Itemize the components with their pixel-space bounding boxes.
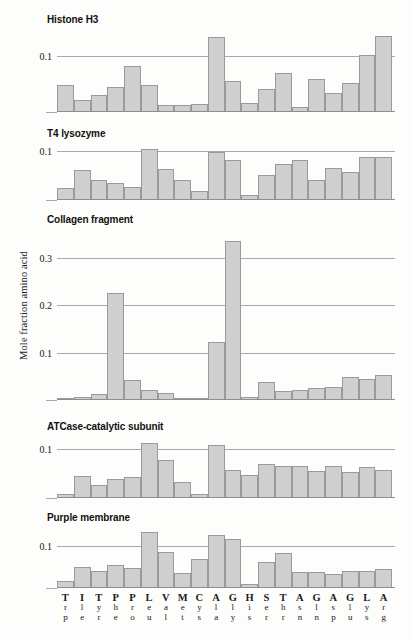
x-tick-letter: u	[342, 613, 359, 623]
bar	[225, 241, 242, 399]
x-tick-glu: Glu	[342, 592, 359, 638]
x-tick-letter: u	[141, 613, 158, 623]
x-tick-letter: p	[325, 613, 342, 623]
bar	[191, 191, 208, 199]
bar	[359, 157, 376, 199]
x-tick-letter: e	[74, 613, 91, 623]
bar	[57, 85, 74, 111]
bar	[325, 387, 342, 399]
bar	[241, 475, 258, 497]
x-tick-ser: Ser	[258, 592, 275, 638]
bar	[174, 180, 191, 199]
bar	[174, 482, 191, 497]
bar-series	[57, 528, 392, 587]
x-tick-letter: a	[208, 613, 225, 623]
x-axis-line	[57, 497, 395, 498]
panel-title: Histone H3	[47, 14, 98, 25]
y-tick-label: 0.1	[40, 145, 53, 156]
x-tick-arg: Arg	[375, 592, 392, 638]
y-tick-label: 0.3	[40, 253, 53, 264]
bar	[141, 149, 158, 199]
x-tick-pro: Pro	[124, 592, 141, 638]
x-tick-asn: Asn	[292, 592, 309, 638]
bar-series	[57, 30, 392, 111]
bar	[258, 382, 275, 399]
bar	[275, 391, 292, 399]
x-axis-line	[57, 399, 395, 400]
panel-title: ATCase-catalytic subunit	[47, 421, 163, 432]
x-tick-his: His	[241, 592, 258, 638]
x-tick-letter: r	[258, 613, 275, 623]
bar	[359, 467, 376, 497]
bar	[208, 342, 225, 399]
y-tick-label: 0.2	[40, 300, 53, 311]
x-tick-letter: o	[124, 613, 141, 623]
bar	[342, 172, 359, 199]
bar	[308, 471, 325, 497]
x-tick-trp: Trp	[57, 592, 74, 638]
plot-area: 0.1	[57, 529, 392, 588]
bar	[292, 466, 309, 497]
bar	[375, 569, 392, 587]
bar	[375, 375, 392, 399]
x-tick-lys: Lys	[359, 592, 376, 638]
bar	[308, 79, 325, 111]
bar	[208, 535, 225, 587]
bar	[141, 85, 158, 111]
x-tick-phe: Phe	[107, 592, 124, 638]
bar	[325, 574, 342, 587]
baseline-tick	[46, 200, 57, 201]
x-tick-tyr: Tyr	[91, 592, 108, 638]
amino-acid-composition-figure: Mole fraction amino acid Histone H30.1T4…	[0, 0, 411, 639]
bar	[91, 485, 108, 497]
bar	[74, 100, 91, 111]
bar	[342, 377, 359, 399]
bar	[275, 73, 292, 111]
x-tick-letter: y	[225, 613, 242, 623]
bar	[141, 390, 158, 399]
bar	[292, 160, 309, 199]
x-tick-ala: Ala	[208, 592, 225, 638]
bar	[225, 470, 242, 497]
x-tick-met: Met	[174, 592, 191, 638]
y-tick-label: 0.1	[40, 347, 53, 358]
x-tick-letter: n	[308, 613, 325, 623]
x-tick-letter: r	[275, 613, 292, 623]
bar	[141, 443, 158, 497]
x-tick-gln: Gln	[308, 592, 325, 638]
bar	[375, 157, 392, 199]
bar	[191, 104, 208, 111]
bar	[158, 460, 175, 497]
bar	[91, 95, 108, 111]
bar	[74, 567, 91, 587]
bar	[107, 87, 124, 111]
baseline-tick	[46, 588, 57, 589]
bar	[342, 83, 359, 111]
bar	[124, 380, 141, 399]
bar	[342, 472, 359, 497]
x-axis-line	[57, 199, 395, 200]
bar	[91, 571, 108, 587]
bar	[308, 388, 325, 399]
bar	[158, 169, 175, 199]
bar	[359, 379, 376, 399]
bar	[158, 552, 175, 587]
bar	[91, 180, 108, 199]
x-axis-line	[57, 111, 395, 112]
x-tick-letter: t	[174, 613, 191, 623]
bar	[141, 532, 158, 587]
plot-area: 0.10.20.3	[57, 232, 392, 400]
bar	[308, 180, 325, 199]
bar	[124, 568, 141, 587]
bar	[342, 571, 359, 587]
bar	[174, 573, 191, 587]
bar	[325, 466, 342, 497]
bar	[124, 187, 141, 199]
bar	[225, 539, 242, 587]
bar	[124, 477, 141, 497]
plot-area: 0.1	[57, 31, 392, 112]
x-tick-letter: s	[241, 613, 258, 623]
bar	[208, 37, 225, 111]
x-tick-letter: l	[158, 613, 175, 623]
bar	[292, 390, 309, 399]
